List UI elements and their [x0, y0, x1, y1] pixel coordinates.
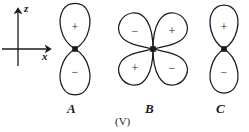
- axes-group: [2, 13, 46, 66]
- orbital-diagram-canvas: [0, 0, 249, 132]
- x-axis-label: x: [42, 51, 48, 62]
- orbital-B-upper-right-lobe-sign: +: [169, 25, 176, 37]
- orbital-A-upper-lobe-sign: +: [72, 21, 79, 33]
- z-axis-label: z: [24, 3, 28, 14]
- orbital-C-upper-lobe-sign: +: [221, 21, 228, 33]
- orbital-label-B: B: [145, 102, 154, 115]
- orbital-label-C: C: [216, 102, 225, 115]
- orbital-B-upper-left-lobe-sign: −: [132, 25, 139, 37]
- orbital-B-shape: [119, 13, 188, 85]
- orbital-C-nucleus-node: [221, 46, 227, 52]
- orbital-B-nucleus-node: [150, 46, 156, 52]
- orbital-A-nucleus-node: [72, 46, 78, 52]
- orbital-A-shape: [60, 3, 90, 95]
- orbital-label-A: A: [67, 102, 76, 115]
- figure-caption: (V): [115, 116, 130, 127]
- orbital-B-lower-left-lobe-sign: +: [132, 62, 139, 74]
- orbital-B-lower-right-lobe-sign: −: [169, 62, 176, 74]
- orbital-C-lower-lobe-sign: −: [221, 66, 228, 78]
- orbital-A-lower-lobe-sign: −: [72, 66, 79, 78]
- orbital-diagram-figure: z x + − − + + − + − A B C (V): [0, 0, 249, 132]
- orbital-C-shape: [210, 5, 238, 93]
